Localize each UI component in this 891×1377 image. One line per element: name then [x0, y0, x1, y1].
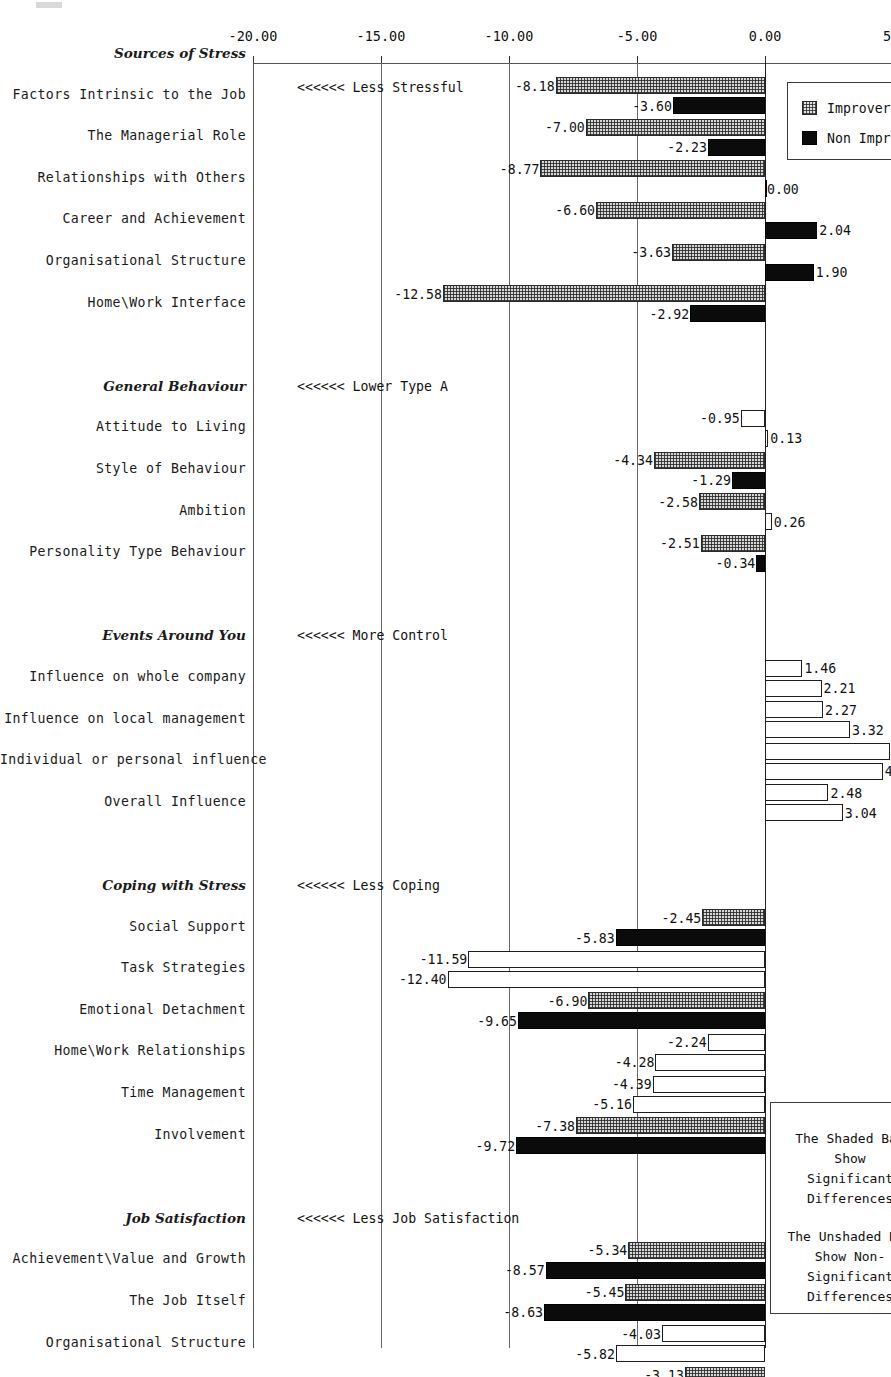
- bar-non-improvers: [516, 1137, 765, 1154]
- bar-value-label: -8.77: [500, 163, 540, 176]
- row-label: The Managerial Role: [0, 128, 246, 143]
- section-heading: Job Satisfaction: [0, 1210, 246, 1226]
- bar-value-label: 1.90: [816, 266, 848, 279]
- bar-improvers: [662, 1325, 765, 1342]
- bar-value-label: -6.60: [555, 204, 595, 217]
- row-label: Organisational Structure: [0, 253, 246, 268]
- note-unshaded-text: The Unshaded Bar Show Non- Significant D…: [779, 1227, 891, 1308]
- x-axis-line: [253, 63, 891, 64]
- row-label: The Job Itself: [0, 1293, 246, 1308]
- bar-improvers: [586, 119, 765, 136]
- bar-value-label: -12.58: [394, 288, 442, 301]
- bar-non-improvers: [544, 1304, 765, 1321]
- row-label: Ambition: [0, 503, 246, 518]
- row-label: Involvement: [0, 1127, 246, 1142]
- row-label: Social Support: [0, 919, 246, 934]
- bar-non-improvers: [732, 472, 765, 489]
- direction-note: <<<<<< Less Stressful: [297, 80, 464, 95]
- significance-note-box: The Shaded Bar Show Significant Differen…: [770, 1102, 891, 1314]
- bar-value-label: -5.45: [585, 1286, 625, 1299]
- bar-value-label: -5.16: [592, 1098, 632, 1111]
- section-heading: General Behaviour: [0, 378, 246, 394]
- bar-non-improvers: [756, 555, 765, 572]
- row-label: Achievement\Value and Growth: [0, 1251, 246, 1266]
- bar-non-improvers: [655, 1054, 765, 1071]
- bar-value-label: -0.95: [700, 412, 740, 425]
- bar-value-label: -6.90: [548, 995, 588, 1008]
- bar-improvers: [672, 244, 765, 261]
- bar-value-label: -4.34: [613, 454, 653, 467]
- scan-artifact: [36, 2, 62, 8]
- direction-note: <<<<<< More Control: [297, 628, 448, 643]
- bar-non-improvers: [765, 513, 772, 530]
- section-heading: Sources of Stress: [0, 45, 246, 61]
- bar-value-label: -2.24: [667, 1036, 707, 1049]
- bar-improvers: [702, 909, 765, 926]
- bar-value-label: -4.39: [612, 1078, 652, 1091]
- x-axis-tick-label: -5.00: [617, 28, 658, 44]
- bar-non-improvers: [765, 430, 768, 447]
- bar-value-label: 2.21: [824, 682, 856, 695]
- bar-non-improvers: [448, 971, 765, 988]
- bar-value-label: -9.72: [475, 1140, 515, 1153]
- bar-improvers: [708, 1034, 765, 1051]
- row-label: Career and Achievement: [0, 211, 246, 226]
- x-axis-tick-label: 5: [883, 28, 891, 44]
- bar-non-improvers: [765, 763, 883, 780]
- bar-value-label: -2.58: [658, 496, 698, 509]
- legend-label-improvers: Improvers: [827, 101, 891, 116]
- row-label: Influence on whole company: [0, 669, 246, 684]
- bar-non-improvers: [708, 139, 765, 156]
- bar-non-improvers: [765, 804, 843, 821]
- bar-improvers: [588, 992, 765, 1009]
- bar-improvers: [685, 1367, 765, 1377]
- bar-non-improvers: [765, 721, 850, 738]
- bar-value-label: 2.27: [825, 704, 857, 717]
- bar-value-label: -9.65: [477, 1015, 517, 1028]
- bar-improvers: [556, 77, 765, 94]
- bar-non-improvers: [546, 1262, 765, 1279]
- bar-non-improvers: [765, 264, 814, 281]
- bar-value-label: -3.63: [631, 246, 671, 259]
- direction-note: <<<<<< Less Coping: [297, 878, 440, 893]
- bar-non-improvers: [690, 305, 765, 322]
- bar-value-label: 0.26: [774, 516, 806, 529]
- bar-value-label: 2.04: [819, 224, 851, 237]
- bar-value-label: 0.13: [770, 432, 802, 445]
- bar-improvers: [596, 202, 765, 219]
- row-label: Personality Type Behaviour: [0, 544, 246, 559]
- row-label: Organisational Structure: [0, 1335, 246, 1350]
- bar-value-label: -8.63: [503, 1306, 543, 1319]
- x-axis-tick-label: -15.00: [357, 28, 406, 44]
- legend-label-non-improvers: Non Improvers: [827, 131, 891, 146]
- bar-non-improvers: [765, 680, 822, 697]
- legend-swatch-shaded-icon: [802, 101, 817, 115]
- bar-value-label: -4.03: [621, 1328, 661, 1341]
- bar-value-label: 2.48: [830, 787, 862, 800]
- legend-entry-non-improvers: Non Improvers: [802, 123, 891, 153]
- bar-value-label: -1.29: [691, 474, 731, 487]
- chart-page: -20.00-15.00-10.00-5.000.005 Sources of …: [0, 0, 891, 1377]
- legend-entry-improvers: Improvers: [802, 93, 891, 123]
- x-axis-tick-label: 0.00: [749, 28, 782, 44]
- bar-improvers: [654, 452, 765, 469]
- legend-swatch-solid-icon: [802, 131, 817, 145]
- bar-value-label: 4.60: [885, 765, 891, 778]
- bar-improvers: [701, 535, 765, 552]
- bar-value-label: -2.45: [662, 912, 702, 925]
- bar-improvers: [625, 1284, 765, 1301]
- bar-non-improvers: [765, 222, 817, 239]
- bar-improvers: [765, 701, 823, 718]
- bar-value-label: -12.40: [399, 973, 447, 986]
- bar-improvers: [576, 1117, 765, 1134]
- bar-non-improvers: [518, 1012, 765, 1029]
- bar-non-improvers: [673, 97, 765, 114]
- bar-non-improvers: [633, 1096, 765, 1113]
- section-heading: Coping with Stress: [0, 877, 246, 893]
- bar-value-label: -7.00: [545, 121, 585, 134]
- bar-value-label: 3.04: [845, 807, 877, 820]
- bar-improvers: [653, 1076, 765, 1093]
- row-label: Influence on local management: [0, 711, 246, 726]
- bar-value-label: -3.60: [632, 100, 672, 113]
- bar-value-label: -0.34: [716, 557, 756, 570]
